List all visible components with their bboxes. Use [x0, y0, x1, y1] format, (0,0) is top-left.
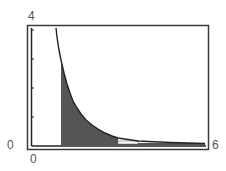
- graph-canvas: [0, 0, 226, 171]
- gap-band: [118, 141, 138, 144]
- plot-frame: [28, 26, 209, 150]
- shaded-integral-region: [61, 60, 205, 146]
